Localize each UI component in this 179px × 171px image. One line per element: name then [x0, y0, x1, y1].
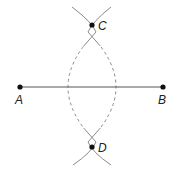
- point-d: [89, 144, 94, 149]
- point-a: [17, 84, 22, 89]
- point-b: [160, 84, 165, 89]
- label-a: A: [14, 93, 23, 107]
- label-d: D: [98, 141, 107, 155]
- arc-left: [68, 7, 96, 165]
- label-b: B: [158, 93, 166, 107]
- construction-diagram: A B C D: [0, 0, 179, 171]
- label-c: C: [98, 19, 107, 33]
- point-c: [89, 22, 94, 27]
